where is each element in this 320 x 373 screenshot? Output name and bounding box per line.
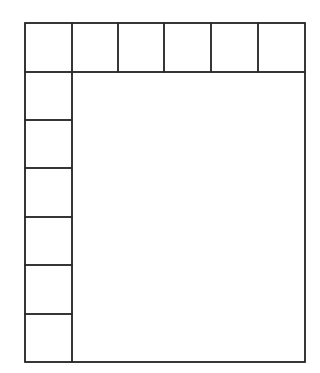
grid-frame-diagram	[0, 0, 320, 373]
left-column-cells	[25, 72, 72, 362]
left-cell-1	[25, 72, 72, 120]
top-row-cells	[25, 23, 305, 72]
left-cell-5	[25, 265, 72, 314]
left-cell-3	[25, 168, 72, 217]
top-cell-5	[211, 23, 258, 72]
outer-frame	[25, 23, 305, 362]
top-cell-6	[258, 23, 305, 72]
top-cell-1	[25, 23, 72, 72]
top-cell-3	[118, 23, 164, 72]
top-cell-2	[72, 23, 118, 72]
left-cell-2	[25, 120, 72, 168]
top-cell-4	[164, 23, 211, 72]
left-cell-4	[25, 217, 72, 265]
main-area	[72, 72, 305, 362]
left-cell-6	[25, 314, 72, 362]
